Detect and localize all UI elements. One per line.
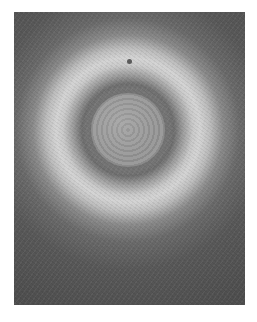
particle-speck xyxy=(127,59,132,64)
particle-core xyxy=(91,93,165,167)
micrograph-image: Micrograph of a round particle surrounde… xyxy=(14,12,245,305)
